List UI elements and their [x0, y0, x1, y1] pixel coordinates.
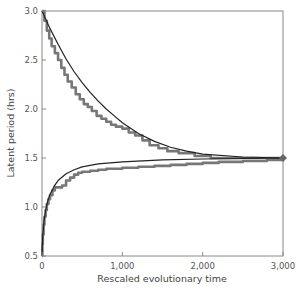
y-tick-label: 2.0: [24, 104, 38, 114]
y-axis-ticks: 0.51.01.52.02.53.0: [24, 6, 46, 261]
x-tick-label: 3,000: [271, 261, 295, 271]
plot-frame: [42, 11, 283, 256]
y-tick-label: 1.0: [24, 202, 38, 212]
y-axis-label: Latent period (hrs): [5, 88, 16, 177]
y-tick-label: 3.0: [24, 6, 38, 16]
x-axis-label: Rescaled evolutionary time: [97, 273, 227, 284]
plot-border: [42, 11, 283, 256]
x-axis-ticks: 01,0002,0003,000: [39, 252, 295, 271]
y-tick-label: 2.5: [24, 55, 38, 65]
x-tick-label: 0: [39, 261, 44, 271]
series-layer: [42, 11, 283, 256]
x-tick-label: 2,000: [190, 261, 214, 271]
y-tick-label: 1.5: [24, 153, 38, 163]
simulation-step-line: [42, 158, 283, 256]
theory-curve: [42, 11, 283, 158]
simulation-step-line: [42, 11, 283, 158]
latent-period-chart: 01,0002,0003,000 0.51.01.52.02.53.0 Resc…: [0, 0, 303, 297]
y-tick-label: 0.5: [24, 251, 38, 261]
x-tick-label: 1,000: [110, 261, 134, 271]
